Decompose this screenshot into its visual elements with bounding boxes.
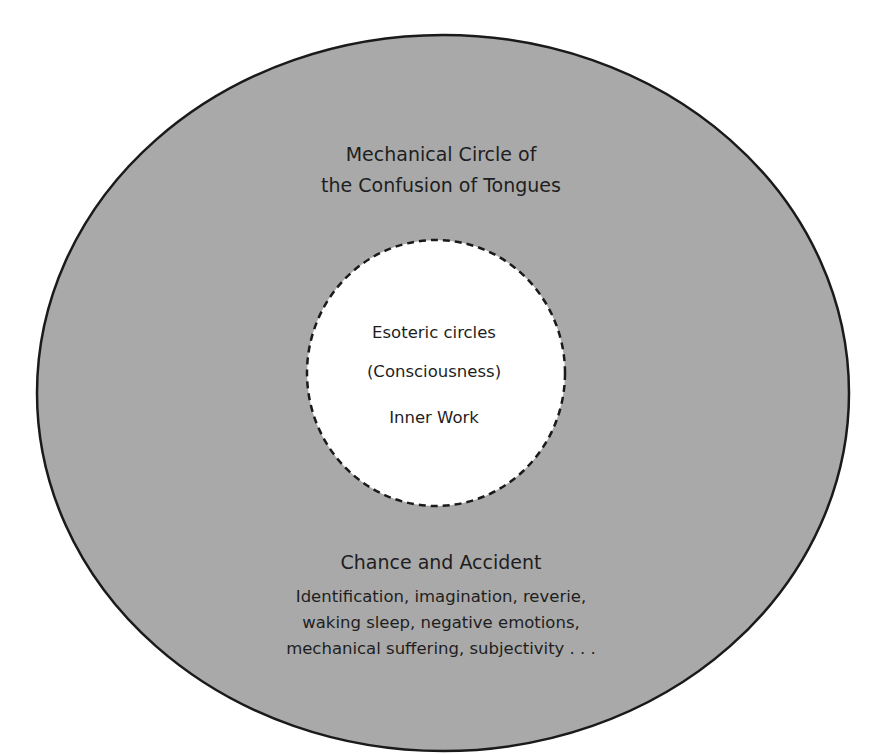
outer-circle-title-line-2: the Confusion of Tongues	[0, 176, 882, 195]
description-line-1: Identification, imagination, reverie,	[0, 589, 882, 606]
description-line-2: waking sleep, negative emotions,	[0, 615, 882, 632]
description-line-3: mechanical suffering, subjectivity . . .	[0, 641, 882, 658]
outer-circle-title-line-1: Mechanical Circle of	[0, 145, 882, 164]
inner-circle-label: Inner Work	[0, 410, 875, 427]
inner-circle-subtitle: (Consciousness)	[0, 364, 875, 381]
inner-circle-title: Esoteric circles	[0, 325, 875, 342]
chance-and-accident-title: Chance and Accident	[0, 553, 882, 572]
